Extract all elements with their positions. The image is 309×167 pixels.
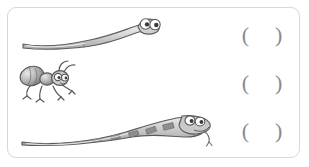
open-paren-worm: ( <box>242 24 249 46</box>
answer-slot-snake[interactable]: ( ) <box>226 106 298 156</box>
close-paren-ant: ) <box>275 72 282 94</box>
snake-tongue <box>204 131 212 146</box>
open-paren-snake: ( <box>242 120 249 142</box>
close-paren-snake: ) <box>275 120 282 142</box>
ant-illustration <box>12 58 220 108</box>
worm-illustration <box>12 10 220 60</box>
snake-illustration <box>12 106 220 156</box>
answer-slot-worm[interactable]: ( ) <box>226 10 298 60</box>
worksheet-row-worm: ( ) <box>8 10 299 60</box>
snake-right-pupil <box>200 120 204 124</box>
ant-right-pupil <box>65 77 68 80</box>
worksheet-row-ant: ( ) <box>8 58 299 108</box>
worksheet-row-snake: ( ) <box>8 106 299 156</box>
worm-left-pupil <box>145 22 149 26</box>
snake-body <box>22 117 206 146</box>
snake-left-pupil <box>190 119 194 123</box>
close-paren-worm: ) <box>275 24 282 46</box>
worksheet-frame: ( ) <box>7 7 300 158</box>
answer-slot-ant[interactable]: ( ) <box>226 58 298 108</box>
open-paren-ant: ( <box>242 72 249 94</box>
ant-left-pupil <box>58 76 61 79</box>
worm-right-pupil <box>154 23 158 27</box>
